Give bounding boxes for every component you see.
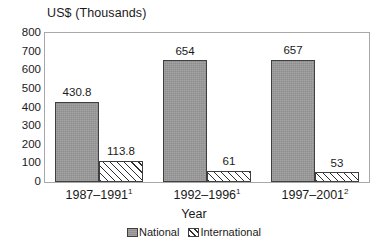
legend-swatch-icon xyxy=(127,228,138,237)
x-axis-tick-label: 1997–20012 xyxy=(255,188,375,202)
y-axis-tick-label: 300 xyxy=(0,120,41,132)
legend-item-label: International xyxy=(200,227,261,238)
bar-chart-figure: US$ (Thousands) 800700600500400300200100… xyxy=(0,0,388,248)
y-axis-tick-label: 200 xyxy=(0,139,41,151)
x-label-superscript: 2 xyxy=(344,187,348,196)
legend-swatch-icon xyxy=(188,228,199,237)
legend-item-label: National xyxy=(139,227,179,238)
bar-value-label: 113.8 xyxy=(89,146,153,158)
bar-value-label: 654 xyxy=(153,46,217,58)
chart-title: US$ (Thousands) xyxy=(47,6,146,20)
x-label-superscript: 1 xyxy=(236,187,240,196)
bar-value-label: 61 xyxy=(197,156,261,168)
x-axis-title: Year xyxy=(0,207,388,221)
bar-value-label: 430.8 xyxy=(45,87,109,99)
bar-international-3 xyxy=(315,172,359,182)
legend-item-national[interactable]: National xyxy=(127,227,179,238)
bar-international-2 xyxy=(207,171,251,182)
y-axis-tick-label: 800 xyxy=(0,27,41,39)
x-axis-tick-label: 1987–19911 xyxy=(39,188,159,202)
x-label-superscript: 1 xyxy=(128,187,132,196)
bar-value-label: 53 xyxy=(305,158,369,170)
chart-legend: NationalInternational xyxy=(0,227,388,238)
legend-item-international[interactable]: International xyxy=(188,227,261,238)
x-axis-tick-label: 1992–19961 xyxy=(147,188,267,202)
y-axis-tick-label: 0 xyxy=(0,176,41,188)
bar-value-label: 657 xyxy=(261,45,325,57)
y-axis: 8007006005004003002001000 xyxy=(0,32,41,183)
bars-layer: 430.8113.86546165753 xyxy=(45,33,369,182)
y-axis-tick-label: 400 xyxy=(0,102,41,114)
bar-international-1 xyxy=(99,161,143,182)
bar-national-1 xyxy=(55,102,99,182)
x-axis-tick-labels: 1987–199111992–199611997–20012 xyxy=(45,188,369,204)
y-axis-tick-label: 500 xyxy=(0,83,41,95)
y-axis-tick-label: 100 xyxy=(0,158,41,170)
y-axis-tick-label: 700 xyxy=(0,46,41,58)
y-axis-tick-label: 600 xyxy=(0,65,41,77)
